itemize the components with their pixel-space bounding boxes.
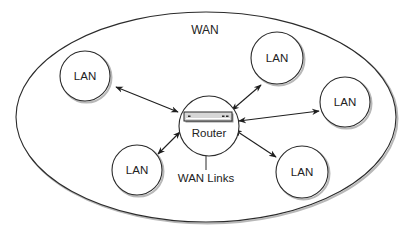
router-label: Router <box>192 127 227 139</box>
lan-node-right: LAN <box>320 77 372 129</box>
lan-node-top-left: LAN <box>60 51 112 103</box>
lan-label: LAN <box>126 164 148 176</box>
lan-label: LAN <box>334 96 356 108</box>
wan-diagram: WAN LAN LAN LAN LAN LAN <box>0 0 411 230</box>
wan-label: WAN <box>191 23 219 37</box>
router-node: Router <box>179 96 239 156</box>
lan-label: LAN <box>74 70 96 82</box>
lan-node-top-right: LAN <box>251 32 305 86</box>
lan-label: LAN <box>266 52 288 64</box>
lan-label: LAN <box>291 166 313 178</box>
lan-node-bottom-right: LAN <box>276 146 330 200</box>
lan-node-bottom-left: LAN <box>112 145 164 197</box>
wan-links-label: WAN Links <box>178 172 235 184</box>
router-icon <box>184 112 234 123</box>
